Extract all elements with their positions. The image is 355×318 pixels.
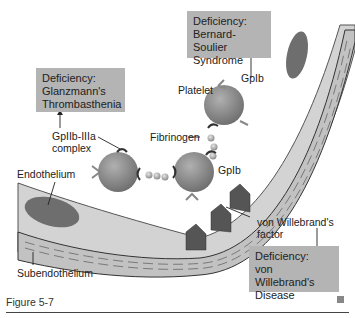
end-marker-icon: [337, 296, 344, 303]
label-line: factor: [257, 228, 334, 240]
box-line: Bernard-Soulier: [193, 28, 265, 54]
label-von-willebrand-factor: von Willebrand's factor: [257, 216, 334, 240]
label-line: von Willebrand's: [257, 216, 334, 228]
box-line: Disease: [255, 289, 333, 302]
label-fibrinogen: Fibrinogen: [150, 131, 200, 143]
deficiency-box-von-willebrand: Deficiency: von Willebrand's Disease: [249, 246, 339, 292]
box-line: Thrombasthenia: [42, 98, 119, 111]
label-subendothelium: Subendothelium: [17, 267, 93, 279]
label-platelet: Platelet: [178, 84, 213, 96]
box-line: Deficiency:: [255, 250, 333, 263]
label-gpib-top: GpIb: [241, 72, 264, 84]
box-line: Deficiency:: [42, 72, 119, 85]
label-line: GpIIb-IIIa: [52, 130, 96, 142]
deficiency-box-bernard-soulier: Deficiency: Bernard-Soulier Syndrome: [187, 11, 271, 58]
label-gpiib-iiia: GpIIb-IIIa complex: [52, 130, 96, 154]
label-line: complex: [52, 142, 96, 154]
endothelial-nucleus-right: [282, 29, 312, 80]
figure-caption: Figure 5-7: [6, 296, 54, 308]
box-line: von Willebrand's: [255, 263, 333, 289]
platelet-left: [98, 152, 138, 192]
platelet-middle: [174, 152, 214, 192]
label-endothelium: Endothelium: [17, 168, 75, 180]
box-line: Glanzmann's: [42, 85, 119, 98]
bottom-rule: [6, 312, 349, 313]
box-line: Deficiency:: [193, 15, 265, 28]
deficiency-box-glanzmann: Deficiency: Glanzmann's Thrombasthenia: [36, 68, 125, 112]
label-gpib-middle: GpIb: [218, 164, 241, 176]
box-line: Syndrome: [193, 54, 265, 67]
